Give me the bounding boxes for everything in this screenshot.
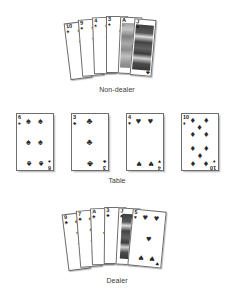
non-dealer-label: Non-dealer — [0, 86, 234, 93]
spade-icon: ♠ — [38, 159, 43, 168]
heart-icon: ♥ — [136, 117, 141, 126]
non-dealer-row: 10 ♠ ♠ ♠ ♠ ♠ 9 ♠ ♠ ♠ ♠ ♠ — [0, 16, 234, 93]
club-icon: ♣ — [103, 159, 106, 164]
club-icon: ♣ — [106, 213, 109, 218]
card-pips: ♥ ♥ ♥ ♥ ♥ — [136, 213, 162, 264]
card-pips: ♥ ♥ ♥ ♥ — [133, 117, 157, 167]
face-card-portrait — [132, 24, 154, 70]
spade-icon: ♠ — [18, 121, 21, 126]
heart-icon: ♥ — [128, 121, 131, 126]
club-icon: ♣ — [78, 217, 82, 222]
heart-icon: ♥ — [156, 261, 160, 267]
spade-icon: ♠ — [26, 117, 31, 126]
heart-icon: ♥ — [148, 159, 153, 168]
card-table-1[interactable]: 3 ♣ ♣ ♣ ♣ 3 ♣ — [71, 113, 109, 171]
heart-icon: ♥ — [153, 214, 159, 223]
spade-icon: ♠ — [26, 159, 31, 168]
diamond-icon: ♦ — [190, 144, 195, 153]
club-icon: ♣ — [146, 69, 150, 75]
dealer-hand: 9 ♣ ♣ ♣ ♣ ♣ 7 ♣ ♣ ♣ ♣ ♣ — [0, 207, 234, 269]
table-cards: 6 ♠ ♠ ♠ ♠ ♠ ♠ ♠ 6 ♠ 3 ♣ ♣ ♣ — [0, 113, 234, 171]
spade-icon: ♠ — [94, 23, 97, 28]
heart-icon: ♥ — [138, 253, 144, 262]
spade-icon: ♠ — [108, 22, 111, 27]
diamond-icon: ♦ — [183, 121, 186, 126]
club-icon: ♣ — [92, 214, 95, 219]
spade-icon: ♠ — [120, 214, 123, 219]
heart-icon: ♥ — [142, 213, 148, 222]
spade-icon: ♠ — [80, 26, 83, 31]
heart-icon: ♥ — [158, 159, 161, 164]
club-icon: ♣ — [136, 24, 140, 29]
diamond-icon: ♦ — [190, 116, 195, 125]
table-row: 6 ♠ ♠ ♠ ♠ ♠ ♠ ♠ 6 ♠ 3 ♣ ♣ ♣ — [0, 113, 234, 184]
table-label: Table — [0, 177, 234, 184]
diamond-icon: ♦ — [204, 116, 209, 125]
spade-icon: ♠ — [38, 138, 43, 147]
card-pips: ♦ ♦ ♦ ♦ ♦ ♦ ♦ ♦ ♦ ♦ — [188, 117, 212, 167]
heart-icon: ♥ — [134, 215, 137, 220]
club-icon: ♣ — [64, 220, 68, 225]
spade-icon: ♠ — [26, 138, 31, 147]
club-icon: ♣ — [87, 138, 93, 147]
heart-icon: ♥ — [146, 234, 152, 243]
diamond-icon: ♦ — [213, 159, 216, 164]
diamond-icon: ♦ — [204, 144, 209, 153]
club-icon: ♣ — [73, 121, 76, 126]
card-pips: ♣ ♣ ♣ — [78, 117, 102, 167]
card-table-0[interactable]: 6 ♠ ♠ ♠ ♠ ♠ ♠ ♠ 6 ♠ — [16, 113, 54, 171]
heart-icon: ♥ — [136, 159, 141, 168]
heart-icon: ♥ — [148, 117, 153, 126]
diamond-icon: ♦ — [197, 151, 202, 160]
dealer-row: 9 ♣ ♣ ♣ ♣ ♣ 7 ♣ ♣ ♣ ♣ ♣ — [0, 207, 234, 284]
card-dealer-5[interactable]: 5 ♥ ♥ ♥ ♥ ♥ ♥ ♥ — [127, 209, 166, 269]
dealer-label: Dealer — [0, 277, 234, 284]
card-non-dealer-5[interactable]: J ♣ ♣ — [130, 18, 157, 77]
card-table-2[interactable]: 4 ♥ ♥ ♥ ♥ ♥ 4 ♥ — [126, 113, 164, 171]
spade-icon: ♠ — [66, 29, 69, 34]
diamond-icon: ♦ — [190, 159, 195, 168]
spade-icon: ♠ — [48, 159, 51, 164]
card-pips: ♠ ♠ ♠ ♠ ♠ ♠ — [23, 117, 47, 167]
club-icon: ♣ — [87, 159, 93, 168]
club-icon: ♣ — [87, 117, 93, 126]
card-table-3[interactable]: 10 ♦ ♦ ♦ ♦ ♦ ♦ ♦ ♦ ♦ ♦ ♦ 10 ♦ — [181, 113, 219, 171]
diamond-icon: ♦ — [204, 130, 209, 139]
card-game-figure: 10 ♠ ♠ ♠ ♠ ♠ 9 ♠ ♠ ♠ ♠ ♠ — [0, 0, 234, 294]
diamond-icon: ♦ — [197, 123, 202, 132]
diamond-icon: ♦ — [190, 130, 195, 139]
spade-icon: ♠ — [38, 117, 43, 126]
non-dealer-hand: 10 ♠ ♠ ♠ ♠ ♠ 9 ♠ ♠ ♠ ♠ ♠ — [0, 16, 234, 78]
diamond-icon: ♦ — [204, 159, 209, 168]
